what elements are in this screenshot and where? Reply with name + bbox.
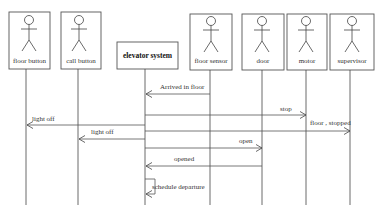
participant-label: door bbox=[257, 57, 271, 65]
message-label: floor , stopped bbox=[310, 119, 351, 127]
participant-door: door bbox=[242, 14, 284, 205]
message-open: open bbox=[145, 137, 262, 152]
participant-label: supervisor bbox=[337, 57, 367, 65]
participant-label: floor button bbox=[13, 57, 47, 65]
message-light-off-floor-button: light off bbox=[27, 115, 145, 129]
sequence-diagram: floor button call button elevator system bbox=[0, 0, 381, 216]
message-label: open bbox=[239, 137, 253, 145]
message-label: schedule departure bbox=[152, 183, 205, 191]
message-label: light off bbox=[32, 115, 55, 123]
participant-label: elevator system bbox=[123, 51, 173, 60]
participant-elevator-system: elevator system bbox=[117, 42, 178, 205]
participant-floor-sensor: floor sensor bbox=[190, 14, 232, 205]
participant-supervisor: supervisor bbox=[330, 14, 374, 205]
message-arrived-in-floor: Arrived in floor bbox=[146, 83, 210, 98]
participant-label: motor bbox=[299, 57, 316, 65]
message-label: light off bbox=[91, 128, 114, 136]
message-schedule-departure: schedule departure bbox=[145, 179, 205, 198]
message-label: opened bbox=[174, 155, 195, 163]
message-label: Arrived in floor bbox=[160, 83, 205, 91]
participant-label: call button bbox=[66, 57, 96, 65]
participant-motor: motor bbox=[287, 14, 327, 205]
message-stop: stop bbox=[145, 105, 306, 119]
message-light-off-call-button: light off bbox=[79, 128, 145, 143]
message-label: stop bbox=[280, 105, 292, 113]
message-floor-stopped: floor , stopped bbox=[145, 119, 351, 135]
participant-floor-button: floor button bbox=[9, 12, 50, 205]
message-opened: opened bbox=[146, 155, 262, 170]
participant-call-button: call button bbox=[61, 12, 101, 205]
participant-label: floor sensor bbox=[194, 57, 228, 65]
